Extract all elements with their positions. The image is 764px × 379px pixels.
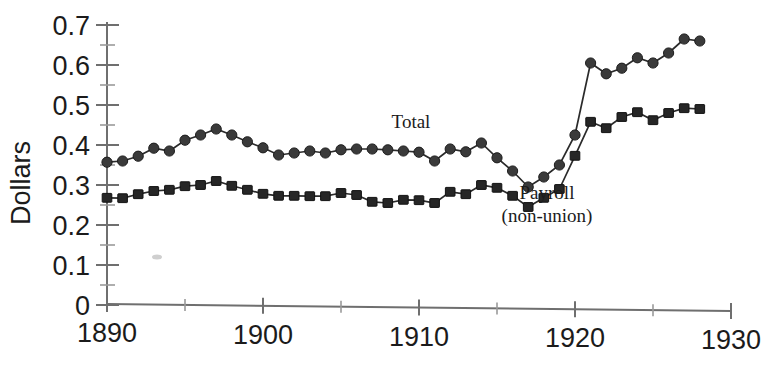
data-point-marker xyxy=(695,36,705,46)
y-tick-label: 0.1 xyxy=(52,251,90,281)
data-point-marker xyxy=(336,189,346,198)
data-point-marker xyxy=(196,130,206,140)
x-tick-label: 1900 xyxy=(233,320,293,350)
data-point-marker xyxy=(430,199,440,208)
data-point-marker xyxy=(242,137,252,147)
data-point-marker xyxy=(648,116,658,125)
data-point-marker xyxy=(211,124,221,134)
data-point-marker xyxy=(539,172,549,182)
data-point-marker xyxy=(149,187,159,196)
data-point-marker xyxy=(695,105,705,114)
data-point-marker xyxy=(133,151,143,161)
data-point-marker xyxy=(305,146,315,156)
data-point-marker xyxy=(648,58,658,68)
data-point-marker xyxy=(492,153,502,163)
data-point-marker xyxy=(601,69,611,79)
x-tick-label: 1910 xyxy=(389,322,449,352)
data-point-marker xyxy=(414,147,424,157)
data-point-marker xyxy=(133,190,143,199)
data-point-marker xyxy=(492,183,502,192)
y-axis-tick-labels: 00.10.20.30.40.50.60.7 xyxy=(52,11,90,321)
data-point-marker xyxy=(367,197,377,206)
series-annotation-label: (non-union) xyxy=(502,205,593,227)
line-chart: 00.10.20.30.40.50.60.7 18901900191019201… xyxy=(0,0,764,379)
data-point-marker xyxy=(274,150,284,160)
data-point-marker xyxy=(367,144,377,154)
data-point-marker xyxy=(508,191,518,200)
data-point-marker xyxy=(149,143,159,153)
data-point-marker xyxy=(445,187,455,196)
data-point-marker xyxy=(243,185,253,194)
chart-container: 00.10.20.30.40.50.60.7 18901900191019201… xyxy=(0,0,764,379)
y-tick-label: 0.5 xyxy=(52,91,90,121)
data-point-marker xyxy=(383,199,393,208)
x-axis-group: 18901900191019201930 xyxy=(77,296,761,355)
data-point-marker xyxy=(461,190,471,199)
data-point-marker xyxy=(227,130,237,140)
x-tick-label: 1930 xyxy=(701,325,761,355)
data-point-marker xyxy=(258,189,268,198)
data-point-marker xyxy=(336,145,346,155)
data-point-marker xyxy=(617,63,627,73)
x-axis-ticks xyxy=(107,296,731,319)
data-point-marker xyxy=(180,135,190,145)
data-point-marker xyxy=(289,191,299,200)
x-tick-label: 1920 xyxy=(545,323,605,353)
data-point-marker xyxy=(352,144,362,154)
data-point-marker xyxy=(399,195,409,204)
data-point-marker xyxy=(586,58,596,68)
data-point-marker xyxy=(476,138,486,148)
data-point-marker xyxy=(477,181,487,190)
data-point-marker xyxy=(383,145,393,155)
data-point-marker xyxy=(321,192,331,201)
data-point-marker xyxy=(461,147,471,157)
y-tick-label: 0.3 xyxy=(52,171,90,201)
data-point-marker xyxy=(258,143,268,153)
data-point-marker xyxy=(570,130,580,140)
data-point-marker xyxy=(507,166,517,176)
data-point-marker xyxy=(227,181,237,190)
y-tick-label: 0 xyxy=(75,291,90,321)
series-annotation-label: Total xyxy=(392,111,431,132)
data-point-marker xyxy=(102,193,112,202)
data-point-marker xyxy=(617,113,627,122)
y-tick-label: 0.4 xyxy=(52,131,90,161)
data-point-marker xyxy=(601,124,611,133)
data-point-marker xyxy=(274,191,284,200)
data-point-marker xyxy=(196,181,206,190)
data-point-marker xyxy=(679,104,689,113)
scan-speck-icon xyxy=(152,255,162,260)
x-tick-label: 1890 xyxy=(77,318,137,348)
y-tick-label: 0.7 xyxy=(52,11,90,41)
data-point-marker xyxy=(633,108,643,117)
data-point-marker xyxy=(586,117,596,126)
data-point-marker xyxy=(305,192,315,201)
data-point-marker xyxy=(180,182,190,191)
data-point-marker xyxy=(414,196,424,205)
data-point-marker xyxy=(352,191,362,200)
y-tick-label: 0.2 xyxy=(52,211,90,241)
data-point-marker xyxy=(164,146,174,156)
data-point-marker xyxy=(320,148,330,158)
data-point-marker xyxy=(118,194,128,203)
data-point-marker xyxy=(664,48,674,58)
x-axis-tick-labels: 18901900191019201930 xyxy=(77,318,761,355)
data-point-marker xyxy=(398,146,408,156)
data-point-marker xyxy=(289,148,299,158)
data-point-marker xyxy=(554,160,564,170)
data-point-marker xyxy=(102,157,112,167)
data-point-marker xyxy=(430,156,440,166)
data-point-marker xyxy=(679,34,689,44)
y-tick-label: 0.6 xyxy=(52,51,90,81)
y-axis-title: Dollars xyxy=(6,141,36,225)
series-annotation-label: Payroll xyxy=(520,182,575,203)
data-point-marker xyxy=(211,177,221,186)
data-point-marker xyxy=(632,53,642,63)
data-point-marker xyxy=(118,156,128,166)
data-point-marker xyxy=(570,151,580,160)
data-point-marker xyxy=(445,144,455,154)
data-point-marker xyxy=(165,185,175,194)
data-point-marker xyxy=(664,109,674,118)
